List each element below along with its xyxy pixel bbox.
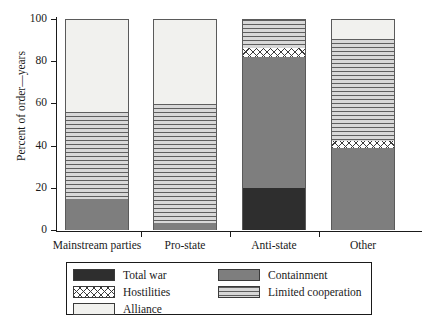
legend-entry[interactable]: Alliance — [73, 303, 218, 315]
x-tick-mark — [230, 232, 231, 237]
chart-legend: Total warContainmentHostilitiesLimited c… — [66, 262, 372, 315]
x-tick-mark — [141, 232, 142, 237]
y-tick-label: 40 — [36, 140, 48, 152]
y-tick-mark — [51, 61, 56, 62]
legend-row: Alliance — [73, 301, 365, 317]
y-tick-label: 80 — [36, 55, 48, 67]
y-tick-label: 20 — [36, 182, 48, 194]
legend-swatch-alliance — [73, 303, 115, 315]
legend-rows: Total warContainmentHostilitiesLimited c… — [73, 267, 365, 317]
legend-row: Total warContainment — [73, 267, 365, 283]
legend-entry[interactable]: Limited cooperation — [218, 286, 365, 298]
y-axis-label: Percent of order—years — [15, 6, 27, 206]
bar-segment-total-war[interactable] — [243, 188, 305, 230]
bar-segment-limited-cooperation[interactable] — [66, 112, 128, 198]
y-tick-mark — [51, 188, 56, 189]
legend-entry[interactable]: Containment — [218, 269, 365, 281]
y-tick-mark — [51, 19, 56, 20]
legend-entry[interactable]: Total war — [73, 269, 218, 281]
bar-segment-hostilities[interactable] — [243, 48, 305, 56]
y-tick-label: 60 — [36, 97, 48, 109]
bar-pro-state[interactable] — [153, 19, 217, 230]
legend-label: Total war — [123, 269, 167, 281]
x-axis-category-label: Other — [283, 239, 436, 252]
legend-label: Alliance — [123, 303, 162, 315]
legend-label: Hostilities — [123, 286, 170, 298]
bar-anti-state[interactable] — [242, 19, 306, 230]
bar-mainstream-parties[interactable] — [65, 19, 129, 230]
y-tick-mark — [51, 146, 56, 147]
legend-label: Containment — [268, 269, 327, 281]
legend-swatch-containment — [218, 269, 260, 281]
bar-segment-limited-cooperation[interactable] — [243, 20, 305, 48]
bar-segment-containment[interactable] — [243, 57, 305, 188]
bar-segment-hostilities[interactable] — [332, 141, 394, 148]
legend-swatch-total-war — [73, 269, 115, 281]
stacked-bar-chart-figure: Percent of order—years 020406080100 Main… — [0, 0, 436, 321]
legend-row: HostilitiesLimited cooperation — [73, 284, 365, 300]
bar-segment-alliance[interactable] — [154, 20, 216, 104]
bar-segment-containment[interactable] — [66, 199, 128, 231]
plot-area — [57, 19, 420, 230]
bar-segment-containment[interactable] — [154, 223, 216, 230]
bar-other[interactable] — [331, 19, 395, 230]
y-tick-label: 100 — [30, 13, 47, 25]
y-tick-mark — [51, 103, 56, 104]
bar-segment-limited-cooperation[interactable] — [332, 39, 394, 141]
y-tick-label: 0 — [41, 224, 47, 236]
y-tick-mark — [51, 230, 56, 231]
bar-segment-containment[interactable] — [332, 148, 394, 230]
x-tick-mark — [319, 232, 320, 237]
bar-segment-alliance[interactable] — [66, 20, 128, 112]
legend-swatch-hostilities — [73, 286, 115, 298]
legend-swatch-limited-cooperation — [218, 286, 260, 298]
x-axis-line — [56, 231, 422, 232]
bar-segment-limited-cooperation[interactable] — [154, 104, 216, 223]
bar-segment-alliance[interactable] — [332, 20, 394, 39]
legend-label: Limited cooperation — [268, 286, 362, 298]
legend-entry[interactable]: Hostilities — [73, 286, 218, 298]
